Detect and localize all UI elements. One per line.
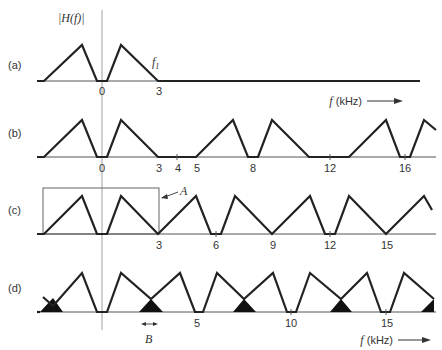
alias-region-2 bbox=[139, 299, 163, 312]
tick-b-16: 16 bbox=[399, 162, 411, 174]
tick-c-12: 12 bbox=[324, 239, 336, 251]
tick-d-10: 10 bbox=[285, 317, 297, 329]
tick-d-5: 5 bbox=[194, 317, 200, 329]
arrow-right-icon bbox=[394, 98, 403, 104]
panel-b-label: (b) bbox=[8, 127, 21, 139]
annotation-A: A bbox=[179, 184, 188, 198]
alias-region-5 bbox=[421, 299, 434, 312]
tick-c-6: 6 bbox=[213, 239, 219, 251]
tick-b-3: 3 bbox=[156, 162, 162, 174]
panel-c-spectrum bbox=[37, 196, 432, 234]
tick-a-3: 3 bbox=[156, 85, 162, 97]
f1-label: f1 bbox=[152, 55, 159, 71]
tick-c-3: 3 bbox=[156, 239, 162, 251]
x-unit-label-a: f (kHz) bbox=[329, 94, 362, 108]
tick-b-8: 8 bbox=[250, 162, 256, 174]
annotation-B: B bbox=[145, 332, 153, 346]
panel-b: (b) 0 3 4 5 8 12 16 bbox=[8, 120, 436, 174]
panel-a: (a) f1 0 3 f (kHz) bbox=[8, 45, 420, 108]
tick-b-12: 12 bbox=[324, 162, 336, 174]
alias-region-4 bbox=[330, 299, 352, 312]
tick-b-4: 4 bbox=[175, 162, 181, 174]
arrow-left-icon bbox=[141, 322, 146, 326]
period-box-A bbox=[43, 188, 159, 234]
arrow-right-icon bbox=[422, 337, 431, 343]
panel-c-label: (c) bbox=[8, 204, 21, 216]
panel-d: (d) 5 10 15 B f (kHz) bbox=[8, 273, 436, 347]
panel-a-label: (a) bbox=[8, 59, 21, 71]
tick-c-15: 15 bbox=[381, 239, 393, 251]
x-axis-unit-a: f (kHz) bbox=[329, 94, 403, 108]
panel-d-label: (d) bbox=[8, 282, 21, 294]
arrow-right-small-icon bbox=[153, 322, 158, 326]
x-axis-unit-d: f (kHz) bbox=[360, 333, 431, 347]
tick-c-9: 9 bbox=[270, 239, 276, 251]
alias-region-3 bbox=[233, 299, 256, 312]
panel-c: (c) A 3 6 9 12 15 bbox=[8, 184, 436, 251]
tick-b-0: 0 bbox=[99, 162, 105, 174]
sampling-spectrum-figure: |H(f)| (a) f1 0 3 f (kHz) (b) 0 3 4 5 8 … bbox=[0, 0, 442, 350]
tick-a-0: 0 bbox=[99, 85, 105, 97]
annotation-A-arrowhead-icon bbox=[161, 194, 168, 199]
panel-b-spectrum bbox=[37, 120, 436, 157]
y-axis-label: |H(f)| bbox=[58, 11, 85, 25]
panel-a-spectrum bbox=[37, 45, 420, 81]
x-unit-label-d: f (kHz) bbox=[360, 333, 393, 347]
tick-d-15: 15 bbox=[381, 317, 393, 329]
tick-b-5: 5 bbox=[194, 162, 200, 174]
